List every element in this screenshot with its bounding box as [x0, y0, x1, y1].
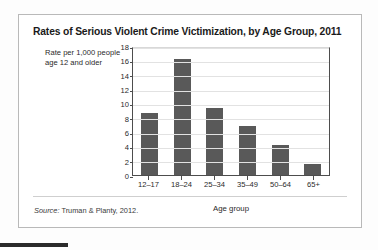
x-axis-tick-labels: 12–1718–2425–3435–4950–6465+	[132, 180, 330, 189]
source-note: Source: Truman & Planty, 2012.	[34, 206, 138, 215]
source-label: Source:	[34, 206, 59, 215]
bar	[141, 113, 158, 175]
bar-slot	[133, 48, 166, 175]
bar	[206, 108, 223, 175]
y-axis-tick-mark	[130, 62, 133, 63]
grid-line	[133, 148, 329, 149]
x-axis-tick-label: 18–24	[165, 180, 198, 189]
y-axis-tick-label: 16	[121, 57, 129, 66]
x-axis-tick-label: 12–17	[132, 180, 165, 189]
grid-line	[133, 62, 329, 63]
y-axis-tick-label: 18	[121, 43, 129, 52]
y-axis-tick-label: 12	[121, 86, 129, 95]
bar-slot	[264, 48, 297, 175]
y-axis-tick-mark	[130, 105, 133, 106]
x-axis-tick-label: 50–64	[264, 180, 297, 189]
y-axis-tick-mark	[130, 91, 133, 92]
bar	[272, 145, 289, 175]
y-axis-tick-mark	[130, 76, 133, 77]
grid-line	[133, 162, 329, 163]
plot-area	[132, 47, 330, 176]
y-axis-tick-label: 8	[125, 114, 129, 123]
bar-slot	[198, 48, 231, 175]
chart-title: Rates of Serious Violent Crime Victimiza…	[33, 26, 341, 37]
y-axis-tick-label: 4	[125, 143, 129, 152]
grid-line	[133, 91, 329, 92]
y-axis-tick-mark	[130, 162, 133, 163]
y-axis-tick-label: 10	[121, 100, 129, 109]
x-axis-title: Age group	[115, 204, 330, 213]
bar	[304, 164, 321, 175]
y-axis-tick-mark	[130, 48, 133, 49]
y-axis-tick-mark	[130, 134, 133, 135]
x-axis-tick-label: 25–34	[198, 180, 231, 189]
grid-line	[133, 105, 329, 106]
bar-series	[133, 48, 329, 175]
y-axis-tick-label: 2	[125, 157, 129, 166]
bottom-rule	[0, 243, 68, 247]
x-axis-tick-label: 65+	[297, 180, 330, 189]
grid-line	[133, 134, 329, 135]
bar-slot	[166, 48, 199, 175]
figure-card: Rates of Serious Violent Crime Victimiza…	[18, 14, 362, 228]
grid-line	[133, 76, 329, 77]
chart-plot-wrapper: 024681012141618 12–1718–2425–3435–4950–6…	[115, 47, 330, 193]
y-axis-tick-label: 6	[125, 129, 129, 138]
source-divider	[33, 196, 347, 197]
y-axis-tick-mark	[130, 119, 133, 120]
bar-slot	[296, 48, 329, 175]
screenshot-root: Rates of Serious Violent Crime Victimiza…	[0, 0, 378, 250]
y-axis-tick-label: 14	[121, 71, 129, 80]
x-axis-tick-label: 35–49	[231, 180, 264, 189]
y-axis-tick-label: 0	[125, 172, 129, 181]
y-axis-tick-labels: 024681012141618	[115, 47, 129, 176]
grid-line	[133, 119, 329, 120]
grid-line	[133, 48, 329, 49]
source-citation: Truman & Planty, 2012.	[59, 206, 138, 215]
y-axis-tick-mark	[130, 148, 133, 149]
bar-slot	[231, 48, 264, 175]
